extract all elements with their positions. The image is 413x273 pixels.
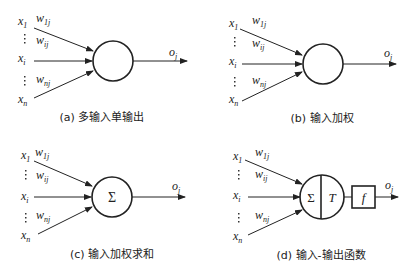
weight-wnj-label: wnj [255, 208, 270, 224]
input-arrow-n [242, 72, 302, 101]
summation-icon: Σ [108, 190, 116, 205]
input-x1-label: x1 [228, 16, 238, 32]
weight-wij-label: wij [36, 33, 49, 49]
input-x1-label: x1 [20, 148, 30, 164]
input-arrow-1 [245, 160, 302, 184]
weight-w1j-label: w1j [35, 145, 50, 161]
threshold-label: T [328, 190, 336, 205]
input-xn-label: xn [228, 92, 238, 108]
input-xn-label: xn [232, 229, 242, 245]
input-x1-label: x1 [232, 149, 242, 165]
caption-b: (b) 输入加权 [290, 111, 353, 125]
neuron-model-diagram: x1 xi xn w1j wij wnj oj (a) 多输入单输出 x1 xi… [0, 0, 413, 273]
weight-w1j-label: w1j [255, 145, 270, 161]
weight-w1j-label: w1j [36, 11, 51, 27]
input-x1-label: x1 [17, 14, 27, 30]
summation-icon: Σ [307, 190, 315, 205]
input-xn-label: xn [17, 92, 27, 108]
weight-wij-label: wij [36, 168, 49, 184]
caption-a: (a) 多输入单输出 [60, 110, 145, 124]
input-xi-label: xi [232, 188, 241, 204]
weight-wnj-label: wnj [36, 208, 51, 224]
neuron-circle [93, 41, 133, 81]
activation-function-label: f [362, 190, 368, 205]
neuron-circle [303, 44, 343, 84]
output-oj-label: oj [169, 45, 178, 61]
input-xi-label: xi [20, 189, 29, 205]
panel-c: x1 xi xn w1j wij wnj Σ oj (c) 输入加权求和 [20, 145, 185, 261]
weight-wnj-label: wnj [36, 72, 51, 88]
input-xn-label: xn [20, 228, 30, 244]
panel-d: x1 xi xn w1j wij wnj Σ T f oj (d) 输入-输出函… [232, 145, 398, 262]
input-xi-label: xi [17, 51, 26, 67]
output-oj-label: oj [172, 179, 181, 195]
input-arrow-1 [240, 29, 302, 55]
input-xi-label: xi [228, 54, 237, 70]
weight-w1j-label: w1j [252, 13, 267, 29]
caption-c: (c) 输入加权求和 [70, 247, 154, 261]
weight-wnj-label: wnj [252, 73, 267, 89]
panel-b: x1 xi xn w1j wij wnj oj (b) 输入加权 [228, 13, 396, 125]
panel-a: x1 xi xn w1j wij wnj oj (a) 多输入单输出 [17, 11, 187, 124]
output-oj-label: oj [384, 46, 393, 62]
output-oj-label: oj [385, 178, 394, 194]
caption-d: (d) 输入-输出函数 [276, 248, 365, 262]
